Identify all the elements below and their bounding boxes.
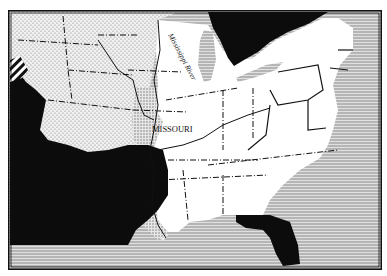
map-svg: MISSOURI Mississippi River — [8, 10, 382, 270]
historical-map: MISSOURI Mississippi River — [8, 10, 382, 270]
missouri-label: MISSOURI — [152, 124, 193, 134]
